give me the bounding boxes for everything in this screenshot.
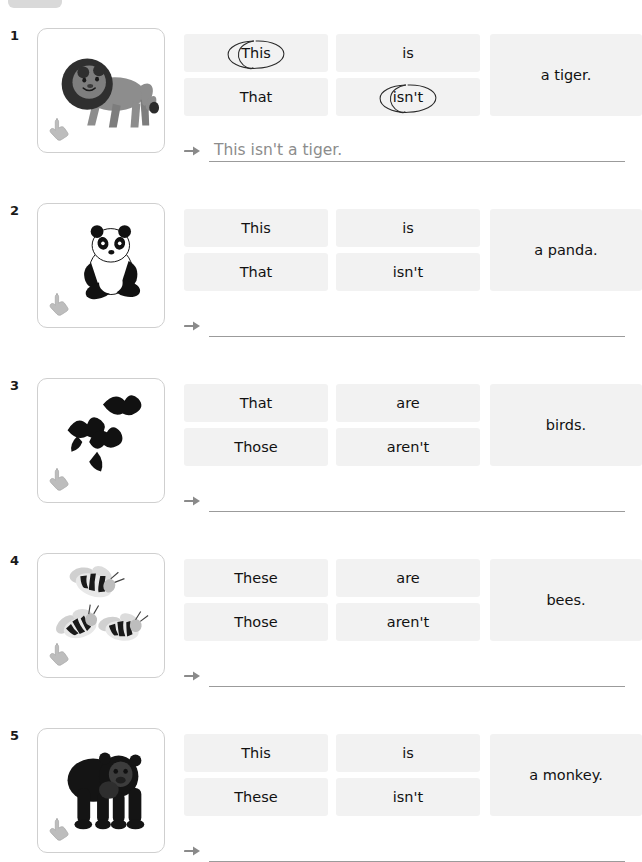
arrow-right-icon [184,318,201,332]
option-verb-top[interactable]: are [336,570,480,586]
option-label: is [402,45,414,61]
option-verb-top[interactable]: is [336,745,480,761]
option-label: isn't [393,89,423,105]
option-label: a panda. [534,242,597,258]
option-verb-bottom[interactable]: isn't [336,89,480,105]
option-verb-bottom[interactable]: aren't [336,614,480,630]
option-subject-top[interactable]: This [184,45,328,61]
picture-card [37,728,165,853]
arrow-right-icon [184,843,201,857]
option-predicate[interactable]: a tiger. [490,67,642,83]
option-label: Those [234,614,277,630]
arrow-right-icon [184,668,201,682]
option-verb-bottom[interactable]: isn't [336,789,480,805]
option-label: These [234,570,277,586]
option-label: a monkey. [529,767,603,783]
option-label: This [241,45,271,61]
page-tab [8,0,62,8]
option-label: aren't [387,439,429,455]
pointing-hand-icon [46,816,72,842]
option-label: is [402,745,414,761]
answer-rule [209,336,625,337]
option-label: is [402,220,414,236]
answer-rule [209,161,625,162]
option-label: are [396,395,419,411]
picture-card [37,553,165,678]
picture-card [37,378,165,503]
option-subject-top[interactable]: This [184,220,328,236]
option-subject-bottom[interactable]: That [184,89,328,105]
option-label: This [241,745,271,761]
option-subject-bottom[interactable]: That [184,264,328,280]
option-predicate[interactable]: birds. [490,417,642,433]
option-subject-bottom[interactable]: Those [184,614,328,630]
option-subject-top[interactable]: That [184,395,328,411]
pointing-hand-icon [46,641,72,667]
exercise-number: 3 [10,378,19,393]
exercise-number: 5 [10,728,19,743]
option-verb-bottom[interactable]: isn't [336,264,480,280]
option-subject-top[interactable]: These [184,570,328,586]
option-label: Those [234,439,277,455]
option-predicate[interactable]: a monkey. [490,767,642,783]
option-label: That [240,395,273,411]
option-label: These [234,789,277,805]
option-label: a tiger. [541,67,592,83]
option-label: This [241,220,271,236]
option-subject-top[interactable]: This [184,745,328,761]
option-predicate[interactable]: a panda. [490,242,642,258]
option-label: That [240,264,273,280]
option-label: aren't [387,614,429,630]
option-label: isn't [393,264,423,280]
picture-card [37,28,165,153]
option-subject-bottom[interactable]: These [184,789,328,805]
option-label: isn't [393,789,423,805]
option-label: are [396,570,419,586]
pointing-hand-icon [46,116,72,142]
option-verb-bottom[interactable]: aren't [336,439,480,455]
option-verb-top[interactable]: is [336,220,480,236]
exercise-number: 2 [10,203,19,218]
exercise-number: 4 [10,553,19,568]
pointing-hand-icon [46,291,72,317]
option-label: birds. [546,417,586,433]
option-label: That [240,89,273,105]
option-subject-bottom[interactable]: Those [184,439,328,455]
picture-card [37,203,165,328]
pointing-hand-icon [46,466,72,492]
answer-text[interactable]: This isn't a tiger. [214,141,342,159]
arrow-right-icon [184,493,201,507]
option-verb-top[interactable]: are [336,395,480,411]
answer-rule [209,511,625,512]
arrow-right-icon [184,143,201,157]
option-label: bees. [546,592,585,608]
answer-rule [209,686,625,687]
exercise-number: 1 [10,28,19,43]
option-predicate[interactable]: bees. [490,592,642,608]
option-verb-top[interactable]: is [336,45,480,61]
